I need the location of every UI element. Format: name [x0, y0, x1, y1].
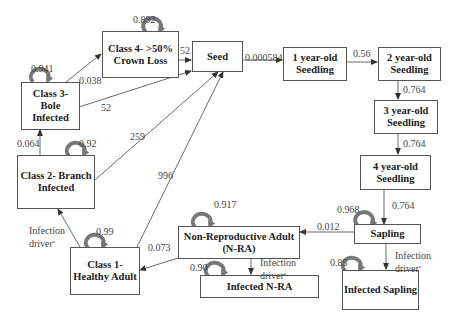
- loop-label-infected-nra: 0.90: [190, 262, 208, 273]
- edge-label-seedling3-seedling4: 0.764: [403, 138, 426, 149]
- node-seedling3: 3 year-old Seedling: [374, 100, 438, 134]
- loop-label-sapling: 0.968: [337, 204, 360, 215]
- node-seedling3-label: 3 year-old Seedling: [375, 105, 437, 129]
- edge-nra-class1: [140, 258, 178, 270]
- node-seedling2: 2 year-old Seedling: [378, 47, 441, 81]
- loop-label-nra: 0.917: [214, 199, 237, 210]
- node-infected-sapling-label: Infected Sapling: [344, 284, 417, 296]
- node-class1-label: Class 1- Healthy Adult: [71, 259, 139, 283]
- edge-label-class1-seed: 996: [158, 170, 173, 181]
- edge-label-class2-seed: 259: [130, 131, 145, 142]
- edge-label-class1-class2: Infection drivera: [29, 225, 69, 249]
- edge-label-nra-class1: 0.073: [148, 242, 171, 253]
- node-nra: Non-Reproductive Adult (N-RA): [178, 226, 300, 259]
- edge-label-nra-infected: Infection drivera: [260, 257, 300, 281]
- node-seedling1-label: 1 year-old Seedling: [284, 52, 346, 76]
- loop-label-class3: 0.941: [31, 63, 54, 74]
- node-seed-label: Seed: [207, 51, 228, 63]
- node-seedling1: 1 year-old Seedling: [283, 47, 347, 81]
- edge-label-sapling-nra: 0.012: [317, 221, 340, 232]
- edge-label-seedling4-sapling: 0.764: [392, 200, 415, 211]
- node-seedling4: 4 year-old Seedling: [360, 155, 431, 190]
- edge-label-class3-class4: 0.038: [79, 75, 102, 86]
- edge-label-sapling-infected: Infection drivera: [395, 250, 435, 274]
- node-class2: Class 2- Branch Infected: [17, 155, 95, 209]
- node-seedling4-label: 4 year-old Seedling: [361, 161, 430, 185]
- node-infected-nra-label: Infected N-RA: [227, 281, 293, 293]
- edge-label-seedling2-seedling3: 0.764: [403, 84, 426, 95]
- node-sapling: Sapling: [354, 224, 421, 244]
- node-infected-sapling: Infected Sapling: [342, 270, 419, 310]
- loop-label-class2: 0.92: [79, 138, 97, 149]
- node-class3: Class 3- Bole Infected: [21, 82, 80, 130]
- node-class1: Class 1- Healthy Adult: [70, 247, 140, 295]
- node-sapling-label: Sapling: [371, 228, 405, 240]
- node-seed: Seed: [192, 41, 243, 72]
- node-nra-label: Non-Reproductive Adult (N-RA): [179, 231, 299, 255]
- edge-label-class4-seed: 52: [180, 45, 190, 56]
- loop-label-class1: 0.99: [96, 226, 114, 237]
- self-loop-nra-icon: [193, 214, 211, 227]
- edge-label-class2-class3: 0.064: [17, 138, 40, 149]
- node-class4-label: Class 4- >50% Crown Loss: [103, 43, 178, 67]
- self-loop-infected-nra-icon: [206, 263, 224, 276]
- edge-label-class3-seed: 52: [101, 102, 111, 113]
- edge-label-seed-seedling1: 0.000584: [245, 52, 283, 63]
- loop-label-class4: 0.892: [133, 14, 156, 25]
- edge-label-seedling1-seedling2: 0.56: [353, 48, 371, 59]
- edge-class2-seed: [95, 72, 218, 180]
- loop-label-infected-sapling: 0.85: [330, 257, 348, 268]
- node-seedling2-label: 2 year-old Seedling: [379, 52, 440, 76]
- node-class2-label: Class 2- Branch Infected: [18, 170, 94, 194]
- node-class4: Class 4- >50% Crown Loss: [102, 31, 179, 78]
- node-class3-label: Class 3- Bole Infected: [22, 88, 79, 124]
